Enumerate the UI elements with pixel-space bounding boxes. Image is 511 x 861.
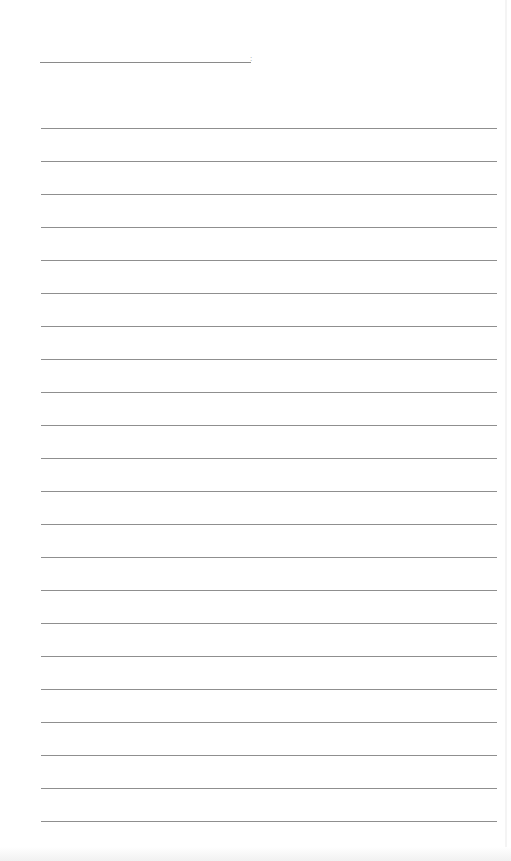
ruled-line — [41, 293, 497, 294]
ruled-line — [41, 656, 497, 657]
ruled-line — [41, 557, 497, 558]
ruled-line — [41, 392, 497, 393]
ruled-line — [41, 821, 497, 822]
ruled-line — [41, 458, 497, 459]
ruled-line — [41, 491, 497, 492]
ruled-line — [41, 788, 497, 789]
ruled-line — [41, 689, 497, 690]
lined-paper-page: : — [0, 0, 511, 861]
ruled-line — [41, 326, 497, 327]
ruled-line — [41, 260, 497, 261]
ruled-line — [41, 194, 497, 195]
ruled-line — [41, 722, 497, 723]
ruled-line — [41, 128, 497, 129]
ruled-line — [41, 590, 497, 591]
ruled-line — [41, 755, 497, 756]
ruled-line — [41, 359, 497, 360]
ruled-line — [41, 227, 497, 228]
page-bottom-shadow — [0, 847, 511, 861]
page-edge — [505, 0, 507, 861]
ruled-line — [41, 425, 497, 426]
ruled-line — [41, 161, 497, 162]
ruled-line — [41, 524, 497, 525]
name-line — [40, 62, 251, 63]
name-line-mark: : — [250, 55, 252, 63]
ruled-line — [41, 623, 497, 624]
